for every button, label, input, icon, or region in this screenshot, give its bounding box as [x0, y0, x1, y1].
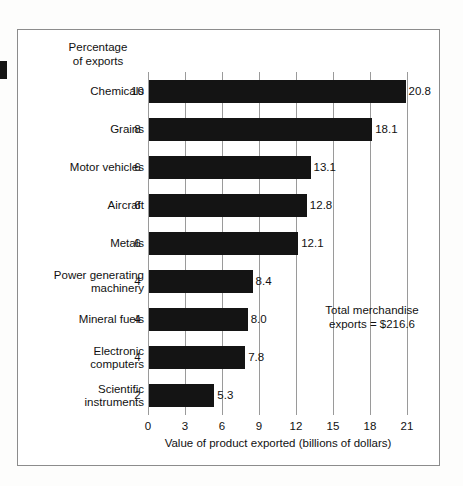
page-bleed-mark: [0, 61, 7, 79]
scanned-page: Percentage of exports 036912151821Chemic…: [0, 0, 463, 486]
total-merchandise-annotation: Total merchandise exports = $216.6: [312, 303, 432, 331]
percentage-header-line2: of exports: [52, 55, 144, 69]
x-axis-title: Value of product exported (billions of d…: [120, 437, 436, 449]
percentage-column-header: Percentage of exports: [52, 41, 144, 68]
annotation-line2: exports = $216.6: [312, 317, 432, 331]
annotation-line1: Total merchandise: [312, 303, 432, 317]
figure-frame: [17, 29, 440, 466]
percentage-header-line1: Percentage: [52, 41, 144, 55]
